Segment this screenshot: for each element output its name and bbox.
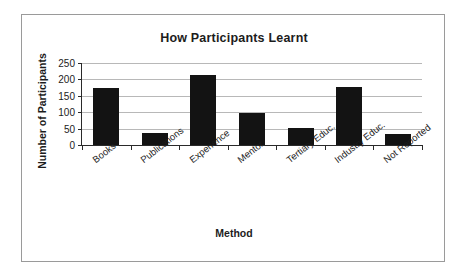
chart-frame: How Participants Learnt Number of Partic… [21, 14, 445, 262]
plot-area: 050100150200250 BooksPublicationsExperie… [81, 63, 422, 146]
y-tick-label: 250 [58, 58, 75, 69]
x-tick-mark [131, 145, 132, 150]
y-axis-title: Number of Participants [36, 51, 48, 171]
x-tick-mark [228, 145, 229, 150]
bar-slot [228, 63, 277, 145]
bar[interactable] [190, 75, 216, 145]
x-tick-mark [325, 145, 326, 150]
y-tick-label: 50 [64, 123, 75, 134]
x-tick-mark [373, 145, 374, 150]
y-tick-label: 0 [69, 140, 75, 151]
x-axis-title: Method [22, 227, 446, 239]
bar-slot [82, 63, 131, 145]
y-tick-label: 100 [58, 107, 75, 118]
x-tick-mark [276, 145, 277, 150]
y-tick-label: 200 [58, 74, 75, 85]
x-tick-mark [82, 145, 83, 150]
chart-figure: How Participants Learnt Number of Partic… [0, 0, 465, 279]
chart-title: How Participants Learnt [22, 31, 446, 45]
x-tick-mark [422, 145, 423, 150]
y-tick-label: 150 [58, 90, 75, 101]
x-tick-mark [179, 145, 180, 150]
bar[interactable] [93, 88, 119, 145]
bar[interactable] [239, 113, 265, 145]
